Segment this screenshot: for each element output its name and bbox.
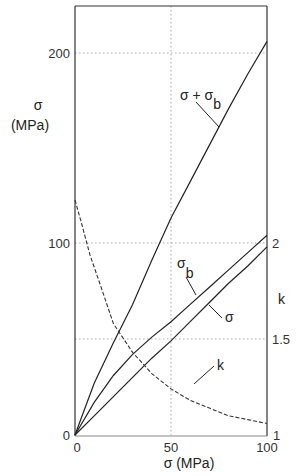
y2-tick-1: 1 <box>273 428 280 443</box>
y-axis-title-unit: (MPa) <box>11 117 49 133</box>
x-tick-50: 50 <box>164 440 178 455</box>
label-sigma-plus-sigma-b: σ + σb <box>180 87 221 112</box>
label-sigma: σ <box>225 309 234 325</box>
y-tick-0: 0 <box>63 428 70 443</box>
y-axis-title-symbol: σ <box>34 97 43 113</box>
chart: σ + σb σb σ k σ (MPa) 200 100 0 0 50 100… <box>0 0 297 476</box>
leader-sigma <box>209 305 222 318</box>
y-tick-200: 200 <box>48 46 70 61</box>
y2-tick-2: 2 <box>272 236 279 251</box>
x-axis-title: σ (MPa) <box>164 455 215 471</box>
label-sigma-b: σb <box>177 255 194 281</box>
leader-k <box>194 366 214 384</box>
grid <box>75 6 267 435</box>
label-k: k <box>217 357 225 373</box>
y2-axis-title: k <box>278 291 286 307</box>
x-tick-0: 0 <box>73 440 80 455</box>
y2-tick-1-5: 1.5 <box>272 332 290 347</box>
y-tick-100: 100 <box>48 236 70 251</box>
